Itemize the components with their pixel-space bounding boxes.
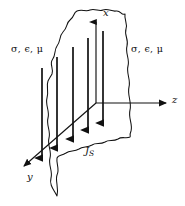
current-sheet-figure: σ, ϵ, μ σ, ϵ, μ x y z JS <box>0 0 185 206</box>
y-axis-label: y <box>27 172 33 182</box>
medium-label-left: σ, ϵ, μ <box>11 44 43 54</box>
medium-label-right: σ, ϵ, μ <box>131 44 163 54</box>
x-axis-label: x <box>103 8 109 18</box>
surface-current-label: JS <box>85 146 94 158</box>
current-subscript: S <box>89 149 94 158</box>
surface-current-arrows <box>42 31 103 158</box>
z-axis-label: z <box>172 95 177 105</box>
